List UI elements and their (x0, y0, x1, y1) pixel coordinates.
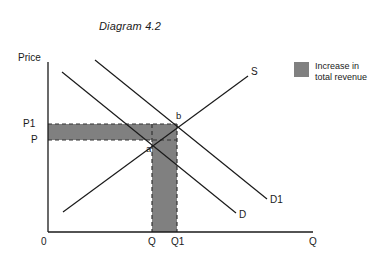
legend-label-line-1: Increase in (315, 61, 359, 71)
supply-curve-label: S (251, 66, 258, 77)
equilibrium-point-a-label: a (146, 143, 151, 154)
quantity-tick-q1: Q1 (171, 236, 184, 247)
demand1-curve-label: D1 (270, 194, 283, 205)
quantity-tick-q: Q (148, 236, 156, 247)
legend-swatch-revenue (294, 62, 309, 77)
price-tick-p: P (31, 134, 38, 145)
axes (48, 62, 313, 232)
demand-curve-label: D (239, 209, 246, 220)
equilibrium-point-b-label: b (176, 110, 181, 121)
diagram-canvas (0, 0, 385, 267)
diagram-figure: Diagram 4.2 Price Q 0 P1 P Q Q1 S (0, 0, 385, 267)
legend-label-revenue: Increase in total revenue (315, 61, 367, 82)
origin-label: 0 (41, 236, 47, 247)
legend: Increase in total revenue (294, 61, 367, 82)
x-axis-label: Q (309, 236, 317, 247)
y-axis-label: Price (18, 52, 41, 63)
price-tick-p1: P1 (23, 118, 35, 129)
legend-label-line-2: total revenue (315, 72, 367, 82)
